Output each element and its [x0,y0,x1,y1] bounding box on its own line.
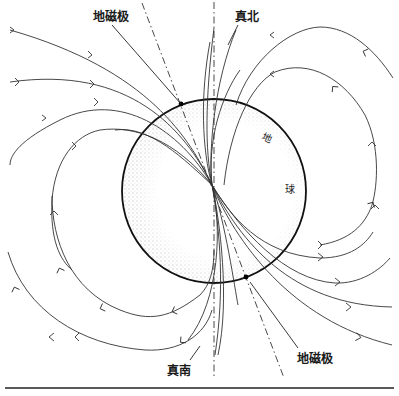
magnetic-pole-south-dot [244,275,249,280]
geomagnetic-field-diagram: 地磁极 真北 真南 地磁极 地 球 [0,0,399,396]
leader-magnetic-pole-north [112,25,181,104]
label-true-north: 真北 [235,9,259,24]
leader-magnetic-pole-south [250,282,298,348]
label-earth-char-2: 球 [285,183,295,195]
leader-true-north [228,25,238,45]
label-true-south: 真南 [167,363,191,378]
label-magnetic-pole-north: 地磁极 [93,9,130,24]
leader-true-south [190,346,200,360]
label-magnetic-pole-south: 地磁极 [297,351,334,366]
